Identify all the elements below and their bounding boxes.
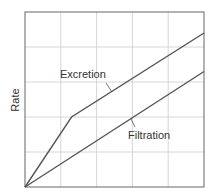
filtration-leader-line: [131, 119, 135, 127]
y-axis-label: Rate: [9, 88, 21, 111]
filtration-label: Filtration: [128, 129, 170, 141]
plot-frame: [25, 12, 204, 187]
excretion-line: [25, 33, 204, 187]
filtration-line: [25, 72, 204, 188]
excretion-leader-line: [106, 83, 112, 92]
plot-area: [0, 0, 214, 194]
gridlines: [25, 12, 204, 187]
rate-chart: Rate Excretion Filtration: [0, 0, 214, 194]
excretion-label: Excretion: [60, 68, 106, 80]
series-lines: [25, 33, 204, 187]
